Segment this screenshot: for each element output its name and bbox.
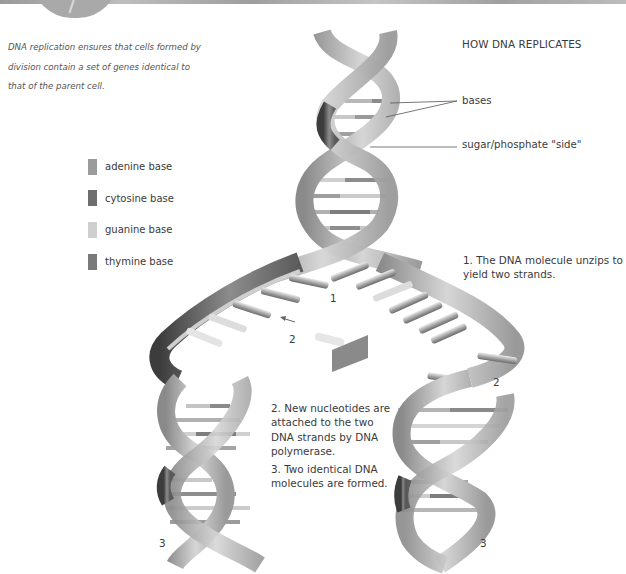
legend-label: thymine base <box>105 256 173 267</box>
legend-label: guanine base <box>105 224 172 235</box>
bases-leader-line-1 <box>390 101 457 103</box>
base-legend: adenine base cytosine base guanine base … <box>88 151 174 277</box>
legend-item-adenine: adenine base <box>88 151 174 183</box>
parent-helix <box>255 32 420 280</box>
adenine-swatch <box>88 159 97 175</box>
daughter-helix-left <box>164 380 260 565</box>
marker-1: 1 <box>330 292 337 304</box>
cytosine-swatch <box>88 190 97 206</box>
marker-3-right: 3 <box>480 537 487 549</box>
marker-3-left: 3 <box>159 537 166 549</box>
intro-caption: DNA replication ensures that cells forme… <box>8 38 208 97</box>
diagram-title: HOW DNA REPLICATES <box>462 38 582 50</box>
thymine-swatch <box>88 254 97 270</box>
marker-2-left: 2 <box>289 333 296 345</box>
step-1-description: 1. The DNA molecule unzips to yield two … <box>463 253 623 282</box>
legend-item-thymine: thymine base <box>88 246 174 278</box>
legend-item-cytosine: cytosine base <box>88 183 174 215</box>
bases-label: bases <box>462 95 492 106</box>
sugar-phosphate-side-label: sugar/phosphate "side" <box>462 139 581 150</box>
marker-2-right: 2 <box>493 376 500 388</box>
guanine-swatch <box>88 222 97 238</box>
legend-item-guanine: guanine base <box>88 214 174 246</box>
legend-label: cytosine base <box>105 193 174 204</box>
step-3-description: 3. Two identical DNA molecules are forme… <box>271 462 391 491</box>
step-2-description: 2. New nucleotides are attached to the t… <box>271 401 391 459</box>
legend-label: adenine base <box>105 161 172 172</box>
daughter-helix-right <box>398 378 508 565</box>
